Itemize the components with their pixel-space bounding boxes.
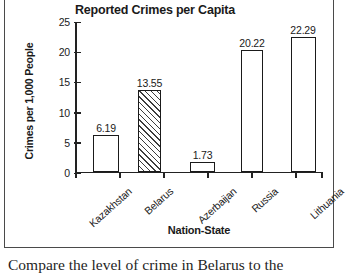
x-tick-mark bbox=[251, 172, 253, 178]
y-tick-mark bbox=[74, 142, 81, 144]
chart-figure-frame: Reported Crimes per Capita Crimes per 1,… bbox=[4, 0, 334, 248]
bar-belarus[interactable] bbox=[138, 90, 161, 172]
y-tick-label: 15 bbox=[59, 76, 70, 88]
y-tick-25: 25 bbox=[41, 16, 81, 28]
figure-caption: Compare the level of crime in Belarus to… bbox=[8, 256, 330, 274]
x-tick-mark bbox=[75, 172, 77, 178]
bar-value-kazakhstan: 6.19 bbox=[83, 122, 129, 134]
y-tick-label: 5 bbox=[64, 137, 70, 149]
x-category-label-azerbaijan: Azerbaijan bbox=[195, 185, 238, 226]
x-tick-mark bbox=[119, 172, 121, 178]
x-tick-mark bbox=[295, 172, 297, 178]
bar-value-russia: 20.22 bbox=[228, 37, 276, 49]
x-tick-mark bbox=[163, 172, 165, 178]
y-tick-label: 20 bbox=[59, 46, 70, 58]
y-tick-10: 10 bbox=[41, 107, 81, 119]
x-tick-mark bbox=[207, 172, 209, 178]
bar-value-lithuania: 22.29 bbox=[279, 24, 327, 36]
x-category-label-russia: Russia bbox=[249, 185, 280, 215]
bar-kazakhstan[interactable] bbox=[93, 135, 119, 172]
bar-value-azerbaijan: 1.73 bbox=[180, 149, 225, 161]
y-tick-label: 25 bbox=[59, 16, 70, 28]
x-tick-mark bbox=[321, 172, 323, 178]
x-category-label-lithuania: Lithuania bbox=[307, 185, 345, 221]
plot-area: 0 5 10 15 20 25 bbox=[75, 22, 323, 173]
chart-title: Reported Crimes per Capita bbox=[5, 3, 305, 17]
y-tick-5: 5 bbox=[41, 137, 81, 149]
y-tick-mark bbox=[74, 112, 81, 114]
bar-azerbaijan[interactable] bbox=[190, 162, 215, 173]
bar-value-belarus: 13.55 bbox=[126, 77, 173, 89]
x-category-label-belarus: Belarus bbox=[142, 185, 175, 217]
y-axis-line bbox=[75, 22, 77, 173]
y-tick-mark bbox=[74, 82, 81, 84]
bar-lithuania[interactable] bbox=[291, 37, 316, 172]
y-tick-20: 20 bbox=[41, 46, 81, 58]
y-tick-mark bbox=[74, 22, 81, 24]
x-category-label-kazakhstan: Kazakhstan bbox=[87, 185, 134, 229]
y-tick-mark bbox=[74, 52, 81, 54]
y-tick-15: 15 bbox=[41, 76, 81, 88]
y-tick-label: 0 bbox=[64, 167, 70, 179]
bar-russia[interactable] bbox=[241, 50, 263, 172]
y-axis-title: Crimes per 1,000 People bbox=[23, 21, 35, 181]
x-axis-title: Nation-State bbox=[75, 224, 323, 236]
y-tick-label: 10 bbox=[59, 107, 70, 119]
